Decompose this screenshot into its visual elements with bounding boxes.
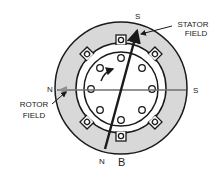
- pole-right-label: S: [193, 86, 198, 95]
- stator-field-label: STATOR FIELD: [170, 20, 216, 38]
- rotor-field-label-line2: FIELD: [16, 111, 52, 120]
- pole-left-label: N: [47, 85, 53, 94]
- pole-bottom-label: N: [99, 157, 105, 166]
- figure-letter: B: [118, 158, 125, 167]
- rotor-field-label-line1: ROTOR: [16, 100, 52, 109]
- stator-field-label-line1: STATOR: [170, 20, 216, 29]
- stator-field-label-line2: FIELD: [170, 29, 216, 38]
- rotor-field-label: ROTOR FIELD: [16, 100, 52, 120]
- pole-top-label: S: [135, 12, 140, 21]
